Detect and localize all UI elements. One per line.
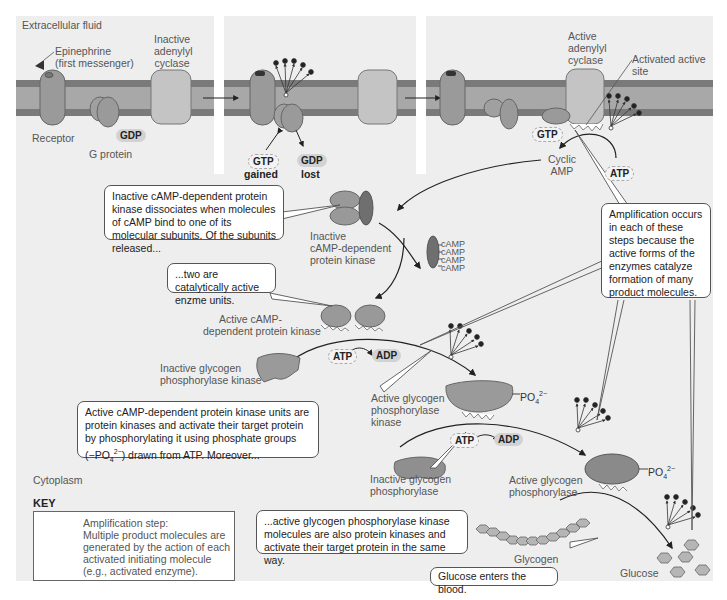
gtp-gained-badge: GTP [248,154,279,169]
key-title: KEY [33,497,56,509]
gp-phosphate-label: PO42− [648,463,675,483]
receptor-icon [40,70,65,125]
inactive-phk-label: Inactive glycogen phosphorylase kinase [160,362,262,386]
epinephrine-label: Epinephrine [55,45,111,57]
glucose-label: Glucose [620,567,659,579]
phk-atp-badge: ATP [450,433,479,448]
callout-phk-units: ...active glycogen phosphorylase kinase … [256,510,468,554]
gdp-lost-badge: GDP [297,154,327,167]
callout-amplification: Amplification occurs in each of these st… [601,203,711,298]
cyclic-amp-label: Cyclic AMP [544,153,580,177]
callout-pka-dissociates: Inactive cAMP-dependent protein kinase d… [104,185,284,240]
activated-active-site-label: Activated active site [632,53,706,77]
signal-cascade-diagram: Extracellular fluid Epinephrine (first m… [0,0,727,600]
receptor-label: Receptor [32,132,75,144]
key-box: Amplification step: Multiple product mol… [33,511,235,581]
epinephrine-sublabel: (first messenger) [55,57,134,69]
gdp-lost-label: lost [301,168,320,180]
active-adenylyl-cyclase-label: Active adenylyl cyclase [568,30,607,66]
key-text: Amplification step: Multiple product mol… [83,517,231,577]
pka-adp-badge: ADP [372,349,401,362]
atp-badge: ATP [605,166,634,181]
camp-labels: cAMP cAMP cAMP cAMP [441,240,465,272]
g-protein-label: G protein [89,148,132,160]
gtp-badge: GTP [532,127,563,142]
pka-atp-badge: ATP [328,349,357,364]
active-adenylyl-cyclase-icon [566,69,604,124]
phk-phosphate-label: PO42− [520,388,547,408]
inactive-gp-label: Inactive glycogen phosphorylase [370,473,451,497]
cytoplasm-label: Cytoplasm [33,474,83,486]
gdp-badge: GDP [116,129,146,142]
inactive-pka-label: Inactive cAMP-dependent protein kinase [310,230,391,266]
callout-two-active-units: ...two are catalytically active enzme un… [167,263,276,293]
active-pka-label: Active cAMP- dependent protein kinase [203,313,321,337]
glycogen-label: Glycogen [514,553,558,565]
active-glycogen-phosphorylase-icon [585,454,639,484]
active-gp-label: Active glycogen phosphorylase [509,474,583,498]
callout-pka-units: Active cAMP-dependent protein kinase uni… [77,401,319,458]
phk-adp-badge: ADP [494,433,523,446]
extracellular-fluid-label: Extracellular fluid [22,19,102,31]
gtp-gained-label: gained [244,168,278,180]
callout-glucose-blood: Glucose enters the blood. [430,567,558,586]
inactive-adenylyl-cyclase-icon [151,70,191,124]
inactive-adenylyl-cyclase-label: Inactive adenylyl cyclase [154,33,190,69]
active-phk-label: Active glycogen phosphorylase kinase [371,392,445,428]
